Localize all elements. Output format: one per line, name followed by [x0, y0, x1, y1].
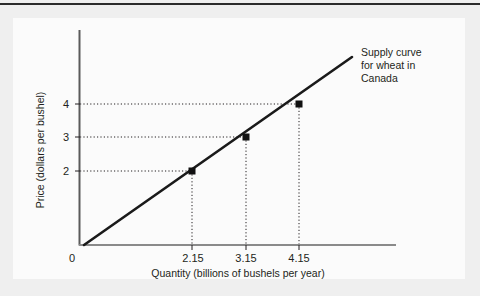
x-tick-label-3-15: 3.15 [235, 252, 256, 264]
x-tick-label-4-15: 4.15 [288, 252, 309, 264]
y-tick-label-2: 2 [63, 165, 69, 177]
figure-root: 2 3 4 0 2.15 3.15 4.15 Quantity (billion… [0, 0, 480, 296]
supply-curve-annotation-line-2: for wheat in [361, 59, 415, 71]
x-tick-label-2-15: 2.15 [182, 252, 203, 264]
supply-curve-annotation-line-3: Canada [361, 72, 398, 84]
y-axis-title: Price (dollars per bushel) [34, 92, 46, 209]
y-tick-label-3: 3 [63, 131, 69, 143]
origin-label: 0 [69, 252, 75, 264]
supply-curve-annotation-line-1: Supply curve [361, 46, 422, 58]
data-point-marker [189, 168, 196, 175]
supply-curve-line [84, 57, 352, 245]
data-point-marker [243, 134, 250, 141]
x-axis-title: Quantity (billions of bushels per year) [151, 267, 324, 279]
supply-curve-chart: 2 3 4 0 2.15 3.15 4.15 Quantity (billion… [0, 0, 480, 296]
y-tick-label-4: 4 [63, 98, 69, 110]
data-point-marker [296, 101, 303, 108]
